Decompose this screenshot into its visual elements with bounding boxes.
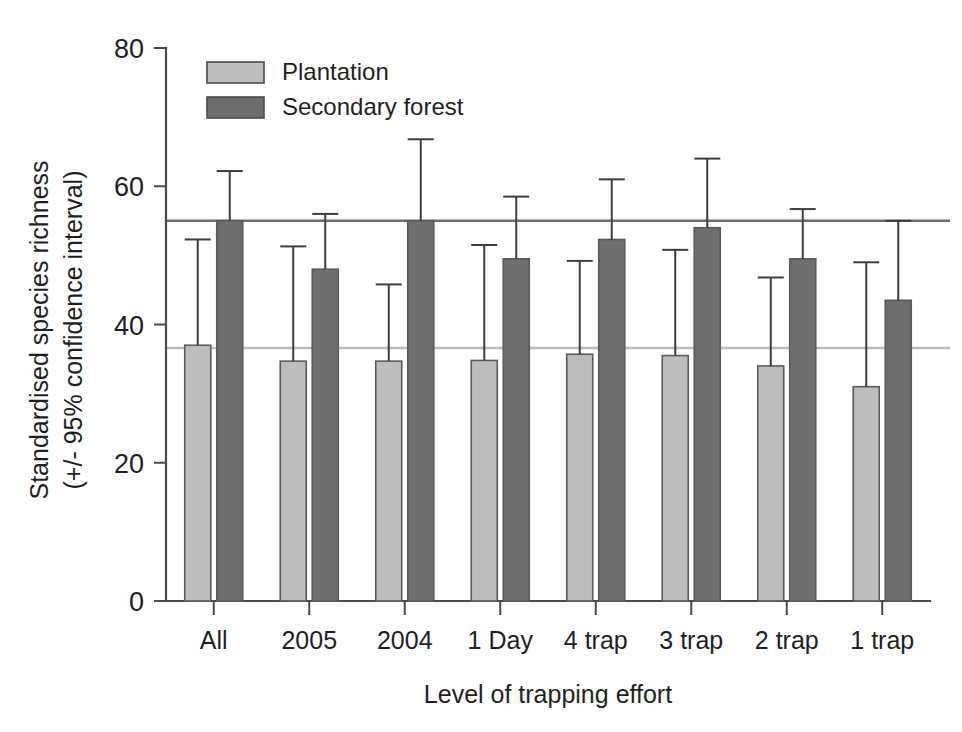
bar-secondary-forest xyxy=(885,300,911,601)
x-category-label: 2005 xyxy=(281,626,337,654)
legend-label-plantation: Plantation xyxy=(282,58,389,85)
y-axis-title-line1: Standardised species richness xyxy=(25,160,53,499)
x-category-label: 2004 xyxy=(377,626,433,654)
bar-chart: 020406080 All200520041 Day4 trap3 trap2 … xyxy=(0,0,962,732)
bar-plantation xyxy=(567,354,593,601)
x-category-label: 1 trap xyxy=(850,626,914,654)
bar-plantation xyxy=(853,387,879,601)
legend-swatch-plantation xyxy=(207,62,264,83)
x-category-label: 2 trap xyxy=(755,626,819,654)
legend-swatch-secondary-forest xyxy=(207,97,264,118)
bar-plantation xyxy=(185,345,211,601)
bar-secondary-forest xyxy=(503,259,529,601)
bar-plantation xyxy=(280,361,306,601)
bar-secondary-forest xyxy=(599,239,625,601)
bar-secondary-forest xyxy=(408,221,434,601)
bar-plantation xyxy=(376,361,402,601)
x-category-label: 1 Day xyxy=(468,626,534,654)
bar-secondary-forest xyxy=(312,269,338,601)
bar-plantation xyxy=(471,360,497,601)
legend-label-secondary-forest: Secondary forest xyxy=(282,93,464,120)
bar-secondary-forest xyxy=(694,228,720,601)
bar-plantation xyxy=(758,366,784,601)
x-category-label: 3 trap xyxy=(659,626,723,654)
y-tick-label: 20 xyxy=(114,449,144,479)
bar-secondary-forest xyxy=(217,221,243,601)
x-category-label: 4 trap xyxy=(564,626,628,654)
x-axis-title: Level of trapping effort xyxy=(424,680,672,708)
y-tick-label: 0 xyxy=(129,587,144,617)
y-tick-label: 40 xyxy=(114,311,144,341)
chart-container: 020406080 All200520041 Day4 trap3 trap2 … xyxy=(0,0,962,732)
y-axis-title-line2: (+/- 95% confidence interval) xyxy=(59,171,87,490)
bar-plantation xyxy=(662,356,688,601)
bar-secondary-forest xyxy=(790,259,816,601)
y-tick-label: 60 xyxy=(114,172,144,202)
y-tick-label: 80 xyxy=(114,34,144,64)
x-category-label: All xyxy=(200,626,228,654)
